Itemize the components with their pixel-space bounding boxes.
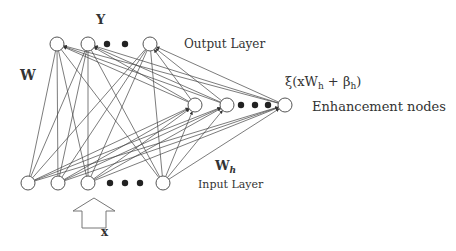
enhancement-node <box>278 98 292 112</box>
ellipsis-dot <box>265 102 271 108</box>
edge <box>64 108 189 179</box>
input-arrow-icon <box>73 198 115 228</box>
output-node <box>81 37 95 51</box>
ellipsis-dot <box>238 102 244 108</box>
ellipsis-dot <box>122 41 128 47</box>
edge <box>62 50 146 177</box>
output-symbol-label: Y <box>95 12 106 27</box>
enhancement-nodes-label: Enhancement nodes <box>312 99 446 114</box>
ellipsis-dot <box>104 41 110 47</box>
ellipsis-dot <box>107 180 113 186</box>
edge <box>155 48 221 100</box>
broad-learning-network-diagram: Y Output Layer W ξ(xWh + βh) Enhancement… <box>0 0 456 251</box>
edge <box>94 108 221 179</box>
enhancement-node <box>220 98 234 112</box>
weight-wh-label: Wh <box>214 158 236 175</box>
edge <box>91 50 147 176</box>
edge <box>95 108 279 181</box>
output-node <box>143 37 157 51</box>
input-node <box>21 176 35 190</box>
edge <box>64 46 221 102</box>
enhancement-formula: ξ(xWh + βh) <box>285 74 361 91</box>
weight-w-label: W <box>19 67 36 83</box>
edge <box>95 46 279 103</box>
input-layer-label: Input Layer <box>198 178 264 191</box>
ellipsis-dot <box>122 180 128 186</box>
edge <box>57 51 58 176</box>
enhancement-node <box>188 98 202 112</box>
input-node <box>81 176 95 190</box>
ellipsis-dot <box>252 102 258 108</box>
input-node <box>51 176 65 190</box>
input-node <box>156 176 170 190</box>
output-node <box>50 37 64 51</box>
input-symbol-label: x <box>101 225 109 239</box>
ellipsis-dot <box>137 180 143 186</box>
edge <box>35 107 279 181</box>
output-layer-label: Output Layer <box>184 37 265 51</box>
connection-edges <box>29 46 279 181</box>
edge <box>94 47 220 102</box>
